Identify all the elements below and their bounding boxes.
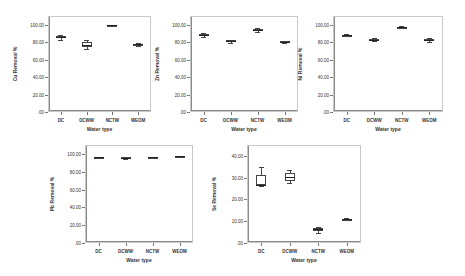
median-line xyxy=(56,37,66,38)
y-tick-label: 40.00 xyxy=(162,75,186,80)
y-tick-label: 60.00 xyxy=(305,57,329,62)
whisker-cap-bottom xyxy=(427,42,432,43)
median-line xyxy=(121,158,131,159)
x-tick xyxy=(258,112,259,115)
x-tick-label: NCTW xyxy=(251,118,265,123)
plot-area xyxy=(85,145,193,243)
whisker-cap-bottom xyxy=(201,37,206,38)
y-axis-title: Ni Removal % xyxy=(297,47,303,80)
y-tick-label: .00 xyxy=(20,110,44,115)
x-axis-line xyxy=(248,241,360,242)
y-tick-label: 100.00 xyxy=(20,22,44,27)
y-tick-label: 10.00 xyxy=(219,219,243,224)
median-line xyxy=(148,157,158,158)
y-tick xyxy=(330,60,333,61)
y-tick-label: 80.00 xyxy=(57,169,81,174)
x-tick-label: NCTW xyxy=(106,118,120,123)
y-tick xyxy=(82,243,85,244)
x-tick-label: NCTW xyxy=(312,249,326,254)
x-tick-label: DC xyxy=(200,118,207,123)
y-tick xyxy=(244,156,247,157)
y-tick xyxy=(244,178,247,179)
median-line xyxy=(342,219,352,220)
median-line xyxy=(256,185,266,186)
median-line xyxy=(94,157,104,158)
y-tick xyxy=(82,154,85,155)
y-tick-label: .00 xyxy=(305,110,329,115)
y-tick-label: 60.00 xyxy=(162,57,186,62)
y-tick xyxy=(45,112,48,113)
x-tick-label: WEOM xyxy=(131,118,146,123)
y-tick xyxy=(244,199,247,200)
x-tick-label: NCTW xyxy=(395,118,409,123)
whisker-cap-top xyxy=(259,167,264,168)
y-tick-label: 20.00 xyxy=(20,92,44,97)
whisker-cap-bottom xyxy=(255,32,260,33)
y-tick xyxy=(330,25,333,26)
median-line xyxy=(107,25,117,26)
x-tick xyxy=(347,112,348,115)
x-tick xyxy=(87,112,88,115)
y-axis-line xyxy=(49,17,50,111)
y-tick xyxy=(82,225,85,226)
median-line xyxy=(133,44,143,45)
whisker-cap-bottom xyxy=(58,40,63,41)
x-axis-title: Water type xyxy=(375,126,400,132)
y-tick-label: .00 xyxy=(162,110,186,115)
x-tick-label: WEOM xyxy=(422,118,437,123)
x-tick-label: WEOM xyxy=(340,249,355,254)
x-axis-title: Water type xyxy=(126,257,151,263)
y-tick-label: 80.00 xyxy=(20,40,44,45)
y-tick xyxy=(187,95,190,96)
y-tick-label: 20.00 xyxy=(305,92,329,97)
x-tick-label: DC xyxy=(344,118,351,123)
y-tick-label: 40.00 xyxy=(57,205,81,210)
y-tick xyxy=(187,60,190,61)
x-axis-title: Water type xyxy=(231,126,256,132)
median-line xyxy=(226,41,236,42)
y-axis-title: Pb Removal % xyxy=(49,177,55,211)
whisker-cap-bottom xyxy=(287,183,292,184)
y-tick-label: 60.00 xyxy=(20,57,44,62)
x-axis-line xyxy=(86,241,192,242)
y-tick-label: 100.00 xyxy=(162,22,186,27)
y-tick-label: .00 xyxy=(219,241,243,246)
y-tick-label: 40.00 xyxy=(219,153,243,158)
plot-area xyxy=(48,16,151,112)
y-tick xyxy=(187,112,190,113)
plot-area xyxy=(247,145,361,243)
plot-area xyxy=(333,16,443,112)
y-tick-label: .00 xyxy=(57,241,81,246)
y-tick-label: 80.00 xyxy=(162,40,186,45)
x-axis-line xyxy=(49,110,150,111)
median-line xyxy=(424,40,434,41)
x-tick xyxy=(290,243,291,246)
whisker-cap-bottom xyxy=(228,43,233,44)
whisker-cap-bottom xyxy=(316,233,321,234)
x-tick xyxy=(112,112,113,115)
x-tick xyxy=(318,243,319,246)
x-tick-label: DCWW xyxy=(367,118,382,123)
median-line xyxy=(175,156,185,157)
median-line xyxy=(369,40,379,41)
y-tick xyxy=(187,42,190,43)
y-tick xyxy=(330,77,333,78)
median-line xyxy=(280,42,290,43)
whisker-cap-top xyxy=(84,40,89,41)
y-tick-label: 30.00 xyxy=(219,175,243,180)
y-tick xyxy=(187,25,190,26)
x-tick-label: DCWW xyxy=(79,118,94,123)
y-tick xyxy=(82,190,85,191)
x-tick-label: DC xyxy=(258,249,265,254)
y-axis-title: Cu Removal % xyxy=(12,47,18,82)
x-tick-label: DCWW xyxy=(282,249,297,254)
y-tick xyxy=(330,95,333,96)
median-line xyxy=(199,35,209,36)
x-axis-line xyxy=(334,110,442,111)
x-tick xyxy=(126,243,127,246)
y-tick xyxy=(82,207,85,208)
x-axis-title: Water type xyxy=(87,126,112,132)
y-tick xyxy=(330,42,333,43)
plot-area xyxy=(190,16,298,112)
x-tick xyxy=(429,112,430,115)
